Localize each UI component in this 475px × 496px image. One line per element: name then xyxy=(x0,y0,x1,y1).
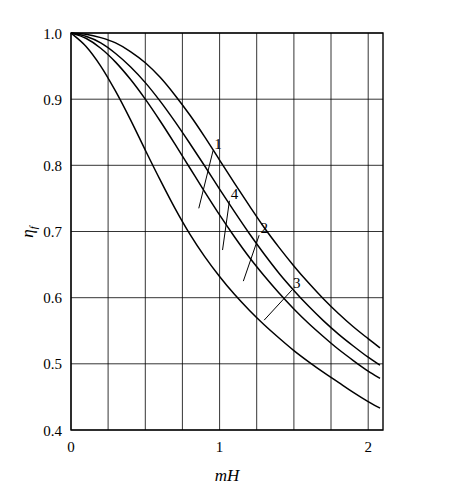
curve-label-1: 1 xyxy=(214,136,222,152)
curve-label-3: 3 xyxy=(293,275,301,291)
y-tick-label: 0.5 xyxy=(43,356,62,372)
svg-text:ηf: ηf xyxy=(18,224,39,237)
x-axis-label: mH xyxy=(215,466,241,485)
y-tick-label: 0.8 xyxy=(43,158,62,174)
y-tick-label: 0.4 xyxy=(43,423,62,439)
x-tick-label: 1 xyxy=(216,439,224,455)
y-axis-label: ηf xyxy=(18,224,39,237)
curve-label-2: 2 xyxy=(260,220,268,236)
curve-label-4: 4 xyxy=(231,186,239,202)
y-tick-label: 0.7 xyxy=(43,224,62,240)
x-tick-label: 0 xyxy=(67,439,75,455)
chart-figure: 1 4 2 3 1.0 0.9 0.8 0.7 0.6 0.5 0.4 0 1 … xyxy=(0,0,475,496)
y-tick-labels: 1.0 0.9 0.8 0.7 0.6 0.5 0.4 xyxy=(43,26,62,439)
y-tick-label: 0.9 xyxy=(43,92,62,108)
chart-svg: 1 4 2 3 1.0 0.9 0.8 0.7 0.6 0.5 0.4 0 1 … xyxy=(0,0,475,496)
y-tick-label: 0.6 xyxy=(43,290,62,306)
y-tick-label: 1.0 xyxy=(43,26,62,42)
y-axis-label-main: η xyxy=(18,229,37,237)
chart-page: 1 4 2 3 1.0 0.9 0.8 0.7 0.6 0.5 0.4 0 1 … xyxy=(0,0,475,496)
x-tick-labels: 0 1 2 xyxy=(67,439,372,455)
y-axis-label-sub: f xyxy=(27,224,39,229)
x-tick-label: 2 xyxy=(364,439,372,455)
